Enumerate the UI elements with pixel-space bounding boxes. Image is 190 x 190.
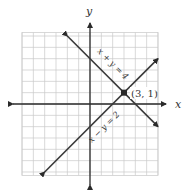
point-label: (3, 1) bbox=[131, 88, 158, 99]
intersection-point bbox=[121, 90, 127, 96]
y-axis-label: y bbox=[85, 5, 93, 18]
coordinate-plane: xy x + y = 4x − y = 2(3, 1) bbox=[0, 0, 190, 190]
line-label-x-plus-y: x + y = 4 bbox=[95, 46, 130, 81]
x-axis-label: x bbox=[175, 98, 182, 111]
annotations: x + y = 4x − y = 2(3, 1) bbox=[86, 46, 158, 144]
